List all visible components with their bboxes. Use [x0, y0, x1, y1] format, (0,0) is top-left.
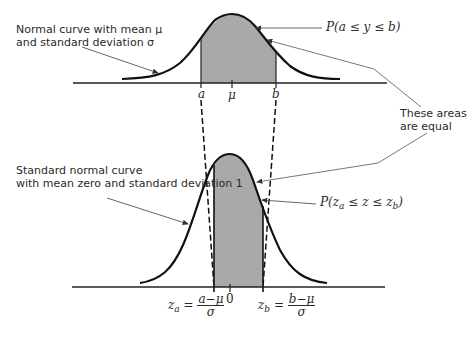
bottom-prob-part: P(z [320, 195, 339, 209]
bottom-probability-label: P(za ≤ z ≤ zb) [320, 196, 403, 213]
zb-formula: zb = b−μ σ [258, 293, 315, 318]
bottom-curve-label-line1: Standard normal curve [16, 164, 243, 177]
zb-sub: b [264, 304, 270, 314]
zb-denominator: σ [288, 306, 316, 318]
equal-areas-label: These areas are equal [400, 107, 467, 133]
tick-label-a: a [198, 88, 205, 101]
bottom-prob-arrow [262, 200, 316, 204]
tick-label-zero: 0 [226, 293, 234, 306]
equal-areas-leader-bottom [257, 133, 427, 182]
bottom-curve-label-line2: with mean zero and standard deviation 1 [16, 177, 243, 190]
equal-areas-line1: These areas [400, 107, 467, 120]
bottom-prob-part: ≤ z ≤ z [344, 195, 392, 209]
bottom-prob-part: ) [398, 195, 403, 209]
bottom-curve-label-arrow [107, 198, 188, 224]
top-curve-label: Normal curve with mean μ and standard de… [16, 23, 162, 49]
zb-equals: = [274, 298, 284, 312]
za-denominator: σ [197, 306, 224, 318]
za-fraction: a−μ σ [197, 293, 224, 318]
za-equals: = [184, 298, 194, 312]
top-curve-label-line2: and standard deviation σ [16, 36, 162, 49]
dashed-projection-b [263, 100, 276, 287]
dashed-projection-a [201, 100, 214, 287]
top-curve-label-line1: Normal curve with mean μ [16, 23, 162, 36]
za-formula: za = a−μ σ [168, 293, 224, 318]
equal-areas-leader-top [267, 40, 421, 107]
za-sub: a [174, 304, 179, 314]
tick-label-mu: μ [228, 89, 236, 102]
equal-areas-line2: are equal [400, 120, 467, 133]
top-probability-label: P(a ≤ y ≤ b) [326, 21, 400, 34]
zb-fraction: b−μ σ [288, 293, 316, 318]
tick-label-b: b [272, 88, 280, 101]
bottom-curve-label: Standard normal curve with mean zero and… [16, 164, 243, 190]
top-curve-label-arrow [82, 47, 158, 73]
